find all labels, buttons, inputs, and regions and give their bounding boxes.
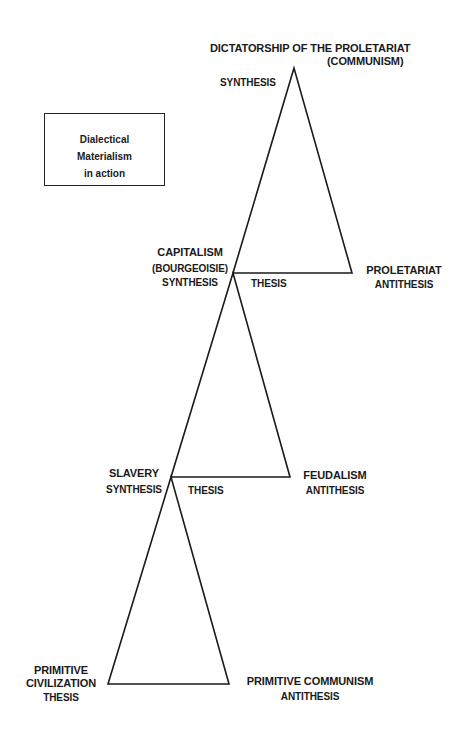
legend-box: Dialectical Materialism in action xyxy=(44,113,165,186)
legend-line-1: Dialectical xyxy=(45,134,164,145)
proletariat-antithesis-label: ANTITHESIS xyxy=(364,278,444,291)
capitalism-thesis-label: THESIS xyxy=(251,277,287,290)
feudalism-antithesis-label: ANTITHESIS xyxy=(300,484,370,497)
primitive-label: PRIMITIVE xyxy=(26,664,96,677)
triangle-slavery-feudalism xyxy=(171,273,290,477)
capitalism-label: CAPITALISM xyxy=(150,246,230,259)
proletariat-label: PROLETARIAT xyxy=(364,264,444,277)
civilization-label: CIVILIZATION xyxy=(26,677,96,690)
bourgeoisie-label: (BOURGEOISIE) xyxy=(150,262,230,275)
top-title-line1: DICTATORSHIP OF THE PROLETARIAT xyxy=(210,42,410,55)
top-title-line2: (COMMUNISM) xyxy=(327,55,404,68)
triangle-primitive xyxy=(108,477,229,684)
primitive-thesis-label: THESIS xyxy=(26,691,96,704)
capitalism-synthesis-label: SYNTHESIS xyxy=(150,276,230,289)
feudalism-label: FEUDALISM xyxy=(300,469,370,482)
triangle-capitalism-proletariat xyxy=(233,68,352,273)
slavery-synthesis-label: SYNTHESIS xyxy=(100,483,168,496)
slavery-thesis-label: THESIS xyxy=(188,484,224,497)
slavery-label: SLAVERY xyxy=(100,467,168,480)
triangle-lines xyxy=(0,0,469,744)
primitive-communism-label: PRIMITIVE COMMUNISM xyxy=(240,675,380,688)
legend-line-3: in action xyxy=(45,168,164,179)
legend-line-2: Materialism xyxy=(45,151,164,162)
primitive-communism-antithesis-label: ANTITHESIS xyxy=(240,690,380,703)
top-role-synthesis: SYNTHESIS xyxy=(220,76,276,89)
